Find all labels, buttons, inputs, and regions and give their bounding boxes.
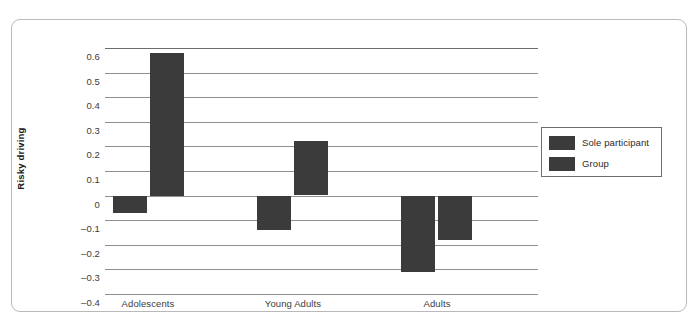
y-tick-label-text: –0.2 (66, 248, 100, 259)
y-tick-label-text: 0 (66, 199, 100, 210)
y-tick-label-text: 0.1 (66, 174, 100, 185)
y-tick-label: –0.2 (60, 248, 100, 259)
y-tick-label: 0 (60, 199, 100, 210)
bar (113, 196, 147, 213)
y-tick-label: 0.5 (60, 76, 100, 87)
y-tick-label: 0.4 (60, 100, 100, 111)
y-tick-label: 0.6 (60, 51, 100, 62)
y-tick-label-text: –0.1 (66, 223, 100, 234)
legend-swatch-icon (549, 136, 575, 150)
y-tick-label-text: 0.5 (66, 76, 100, 87)
bar (257, 196, 291, 230)
category-label: Young Adults (233, 298, 353, 309)
y-axis-title-text: Risky driving (15, 109, 26, 209)
chart-figure: Risky driving 0.60.50.40.30.20.10–0.1–0.… (0, 0, 698, 335)
y-tick-label: –0.3 (60, 272, 100, 283)
y-tick-label: 0.2 (60, 149, 100, 160)
y-tick-label: 0.1 (60, 174, 100, 185)
legend-item-label: Sole participant (582, 137, 649, 148)
legend-item-sole-participant: Sole participant (549, 134, 654, 151)
y-tick-label-text: 0.6 (66, 51, 100, 62)
bar (438, 196, 472, 240)
y-tick-label: 0.3 (60, 125, 100, 136)
y-tick-label: –0.1 (60, 223, 100, 234)
legend-item-group: Group (549, 155, 654, 172)
bar (401, 196, 435, 272)
legend-swatch-icon (549, 157, 575, 171)
gridline (105, 294, 538, 295)
y-axis-title: Risky driving (12, 108, 28, 208)
legend: Sole participant Group (541, 127, 662, 177)
bar (294, 141, 328, 195)
category-label: Adults (377, 298, 497, 309)
y-tick-label-text: –0.3 (66, 272, 100, 283)
y-tick-label-text: 0.3 (66, 125, 100, 136)
y-tick-label-text: 0.2 (66, 149, 100, 160)
y-tick-label-text: 0.4 (66, 100, 100, 111)
category-label: Adolescents (88, 298, 208, 309)
plot-area (105, 48, 538, 294)
legend-item-label: Group (582, 158, 609, 169)
bar (150, 53, 184, 196)
